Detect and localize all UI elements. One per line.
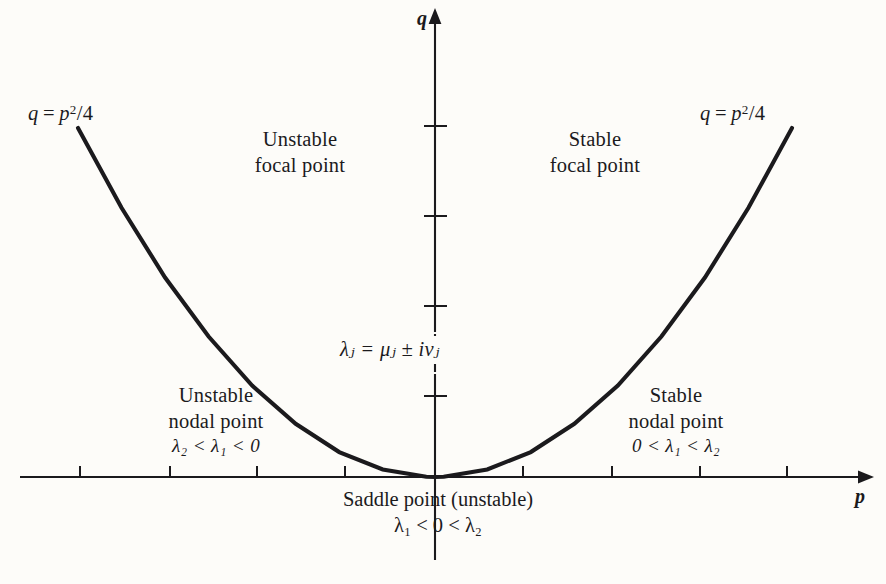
equals-sign-right: = [711, 102, 732, 124]
unstable-focal-line-1: Unstable [195, 126, 405, 152]
q-axis-label: q [417, 6, 427, 32]
exponent-two-right: 2 [742, 102, 749, 117]
curve-equation-left-text: q [28, 102, 39, 124]
p-axis-label: p [855, 484, 865, 510]
region-unstable-nodal-point: Unstable nodal point λ₂ < λ₁ < 0 [108, 382, 324, 459]
curve-equation-right: q = p2/4 [700, 100, 765, 126]
stable-focal-line-2: focal point [490, 152, 700, 178]
exponent-two-left: 2 [70, 102, 77, 117]
stable-nodal-line-2: nodal point [568, 408, 784, 434]
curve-equation-right-text: q [700, 102, 711, 124]
unstable-nodal-line-2: nodal point [108, 408, 324, 434]
stable-nodal-eigenvalue-condition: 0 < λ₁ < λ₂ [568, 434, 784, 458]
region-stable-nodal-point: Stable nodal point 0 < λ₁ < λ₂ [568, 382, 784, 459]
unstable-nodal-line-1: Unstable [108, 382, 324, 408]
stable-nodal-line-1: Stable [568, 382, 784, 408]
region-unstable-focal-point: Unstable focal point [195, 126, 405, 178]
saddle-point-eigenvalue-condition: λ₁ < 0 < λ₂ [278, 512, 598, 538]
equals-sign-left: = [39, 102, 60, 124]
curve-equation-left: q = p2/4 [28, 100, 93, 126]
stability-diagram-figure: q p q = p2/4 q = p2/4 Unstable focal poi… [0, 0, 886, 584]
unstable-focal-line-2: focal point [195, 152, 405, 178]
unstable-nodal-eigenvalue-condition: λ₂ < λ₁ < 0 [108, 434, 324, 458]
region-saddle-point: Saddle point (unstable) λ₁ < 0 < λ₂ [278, 486, 598, 538]
over-four-right: /4 [749, 102, 766, 124]
stable-focal-line-1: Stable [490, 126, 700, 152]
complex-eigenvalue-annotation: λⱼ = μⱼ ± iνⱼ [333, 336, 447, 362]
saddle-point-line-1: Saddle point (unstable) [278, 486, 598, 512]
region-stable-focal-point: Stable focal point [490, 126, 700, 178]
over-four-left: /4 [77, 102, 94, 124]
